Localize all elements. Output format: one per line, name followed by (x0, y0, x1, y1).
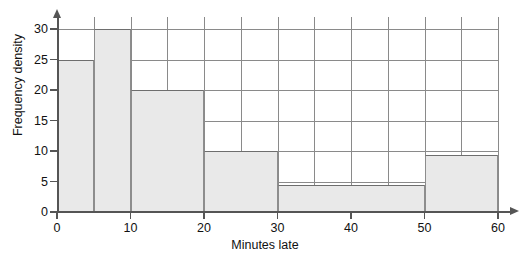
grid-line-vertical (278, 17, 279, 212)
x-axis-title: Minutes late (0, 238, 530, 252)
y-axis-tick (50, 150, 57, 152)
x-axis-tick (130, 212, 132, 219)
histogram-bar (57, 60, 94, 212)
histogram-figure: 0510152025300102030405060 Frequency dens… (0, 0, 530, 262)
x-axis-tick-label: 50 (405, 222, 445, 235)
x-axis-tick (203, 212, 205, 219)
x-axis-line (56, 211, 512, 213)
y-axis-tick (50, 120, 57, 122)
x-axis-tick-label: 60 (478, 222, 518, 235)
grid-line-vertical (498, 17, 499, 212)
y-axis-tick (50, 181, 57, 183)
histogram-bar (204, 151, 278, 212)
x-axis-tick-label: 10 (111, 222, 151, 235)
x-axis-tick-label: 30 (258, 222, 298, 235)
x-axis-tick (56, 212, 58, 219)
x-axis-tick-label: 0 (37, 222, 77, 235)
x-axis-tick-label: 20 (184, 222, 224, 235)
grid-line-vertical (351, 17, 352, 212)
histogram-bar (278, 185, 425, 212)
x-axis-tick-label: 40 (331, 222, 371, 235)
histogram-bar (94, 29, 131, 212)
histogram-bar (425, 155, 499, 212)
y-axis-tick-label: 5 (0, 176, 48, 189)
y-axis-title: Frequency density (11, 25, 25, 145)
y-axis-line (57, 14, 59, 213)
x-axis-tick (424, 212, 426, 219)
x-axis-arrow (510, 207, 519, 215)
y-axis-tick-label: 0 (0, 206, 48, 219)
y-axis-arrow (53, 9, 61, 18)
grid-line-vertical (314, 17, 315, 212)
y-axis-tick (50, 89, 57, 91)
x-axis-tick (277, 212, 279, 219)
plot-area (57, 17, 498, 212)
x-axis-tick (350, 212, 352, 219)
x-axis-tick (497, 212, 499, 219)
grid-line-vertical (388, 17, 389, 212)
y-axis-tick (50, 59, 57, 61)
y-axis-tick (50, 28, 57, 30)
histogram-bar (131, 90, 205, 212)
y-axis-tick-label: 10 (0, 145, 48, 158)
